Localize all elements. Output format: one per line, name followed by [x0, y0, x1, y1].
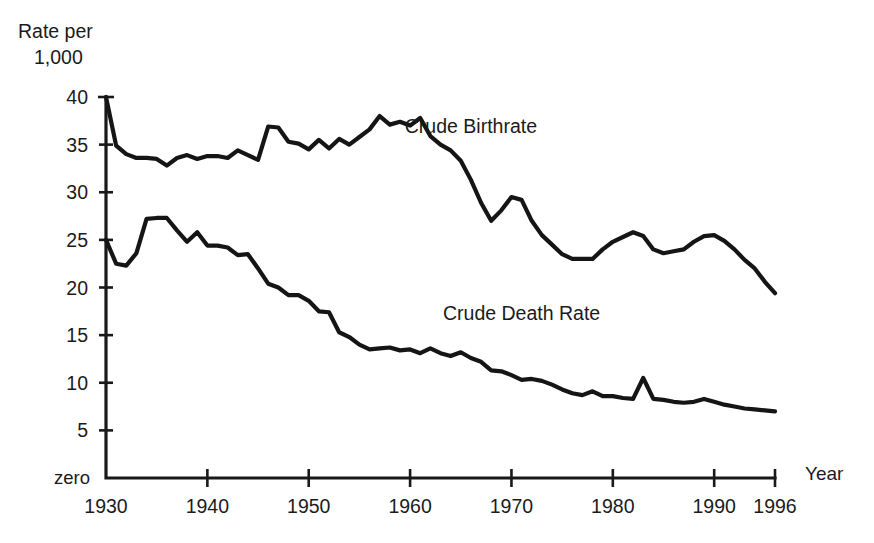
- x-tick-label-1970: 1970: [490, 495, 534, 517]
- x-tick-label-1980: 1980: [591, 495, 635, 517]
- y-axis-label-line1: Rate per: [18, 20, 93, 42]
- y-tick-label-35: 35: [66, 134, 88, 156]
- y-tick-label-25: 25: [66, 229, 88, 251]
- x-tick-label-1940: 1940: [186, 495, 230, 517]
- y-tick-label-15: 15: [66, 324, 88, 346]
- chart-svg: Rate per1,000403530252015105zero19301940…: [0, 0, 874, 543]
- y-tick-label-30: 30: [66, 181, 88, 203]
- series-label-crude-death-rate: Crude Death Rate: [443, 302, 600, 324]
- y-tick-label-zero: zero: [54, 467, 90, 488]
- y-tick-label-40: 40: [66, 86, 88, 108]
- chart-container: Rate per1,000403530252015105zero19301940…: [0, 0, 874, 543]
- x-tick-label-1930: 1930: [84, 495, 128, 517]
- axis-lines: [106, 97, 775, 478]
- x-tick-label-1960: 1960: [388, 495, 432, 517]
- y-tick-label-5: 5: [77, 419, 88, 441]
- x-tick-label-1990: 1990: [692, 495, 736, 517]
- y-axis-label-line2: 1,000: [34, 46, 83, 68]
- x-axis-label: Year: [805, 463, 844, 484]
- series-line-crude-death-rate: [106, 218, 775, 411]
- y-tick-label-20: 20: [66, 277, 88, 299]
- y-tick-label-10: 10: [66, 372, 88, 394]
- x-tick-label-1950: 1950: [287, 495, 331, 517]
- series-label-crude-birthrate: Crude Birthrate: [405, 115, 537, 137]
- x-tick-label-1996: 1996: [753, 495, 796, 517]
